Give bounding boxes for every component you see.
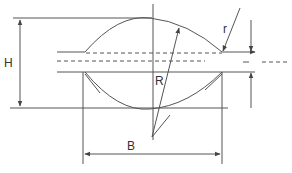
diagram-canvas: H B R r — [0, 0, 292, 173]
label-width: B — [127, 139, 135, 153]
label-large-radius: R — [155, 74, 164, 88]
label-small-radius: r — [223, 22, 227, 36]
label-height: H — [4, 56, 13, 70]
lower-right-fillet-leader — [205, 74, 222, 90]
lower-fillet-leader — [85, 74, 100, 93]
